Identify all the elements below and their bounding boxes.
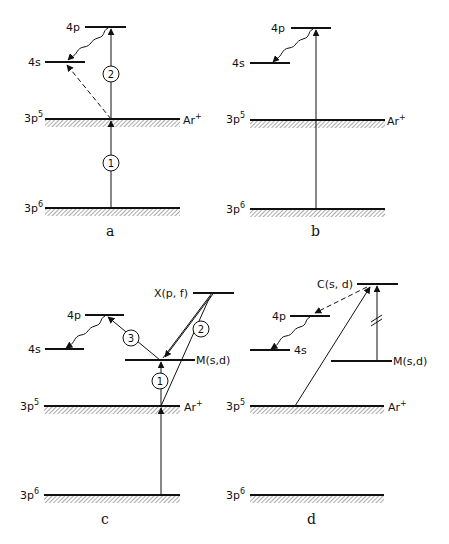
label-x: X(p, f)	[154, 287, 188, 300]
step-number-2: 2	[198, 324, 204, 335]
step-number-3: 3	[128, 333, 134, 344]
panel-label-d: d	[307, 511, 316, 527]
label-3p6: 3p6	[226, 201, 245, 216]
label-m: M(s,d)	[393, 355, 427, 368]
label-c: C(s, d)	[317, 278, 353, 291]
label-3p5: 3p5	[20, 398, 39, 413]
hatch-3p6	[44, 495, 180, 503]
label-4s: 4s	[28, 56, 41, 69]
energy-level-diagram: 4p 4s 3p5 Ar+ 3p6 1 2 a 4p 4s 3p5 Ar+	[0, 0, 449, 544]
panel-c: X(p, f) 4p 4s M(s,d) 3p5 Ar+ 3p6 1 2 3 c	[20, 287, 234, 527]
label-4p: 4p	[66, 21, 80, 34]
label-4p: 4p	[67, 309, 81, 322]
label-4s: 4s	[28, 343, 41, 356]
hatch-3p6	[250, 495, 384, 503]
panel-label-b: b	[311, 223, 320, 239]
label-4s: 4s	[294, 344, 307, 357]
label-3p6: 3p6	[20, 487, 39, 502]
hatch-3p5	[250, 406, 384, 414]
label-3p6: 3p6	[24, 200, 43, 215]
label-ar-ion: Ar+	[387, 113, 406, 128]
label-3p5: 3p5	[24, 110, 43, 125]
step-number-1: 1	[108, 158, 114, 169]
step-number-1: 1	[157, 376, 163, 387]
label-m: M(s,d)	[196, 354, 230, 367]
label-3p6: 3p6	[226, 487, 245, 502]
step-number-2: 2	[108, 69, 114, 80]
panel-b: 4p 4s 3p5 Ar+ 3p6 b	[226, 22, 406, 239]
hatch-3p5	[250, 120, 385, 128]
hatch-3p6	[250, 209, 385, 217]
label-4p: 4p	[272, 310, 286, 323]
label-4s: 4s	[232, 57, 245, 70]
label-3p5: 3p5	[226, 398, 245, 413]
label-ar-ion: Ar+	[388, 399, 407, 414]
label-3p5: 3p5	[226, 111, 245, 126]
panel-a: 4p 4s 3p5 Ar+ 3p6 1 2 a	[24, 21, 202, 239]
label-4p: 4p	[271, 22, 285, 35]
hatch-3p5	[45, 119, 180, 127]
panel-label-c: c	[101, 511, 109, 527]
panel-d: C(s, d) 4p 4s M(s,d) 3p5 Ar+ 3p6 d	[226, 278, 427, 527]
hatch-3p6	[45, 208, 180, 216]
panel-label-a: a	[106, 223, 114, 239]
loop-step-2	[161, 292, 213, 406]
hatch-3p5	[44, 406, 180, 414]
label-ar-ion: Ar+	[183, 112, 202, 127]
label-ar-ion: Ar+	[184, 399, 203, 414]
